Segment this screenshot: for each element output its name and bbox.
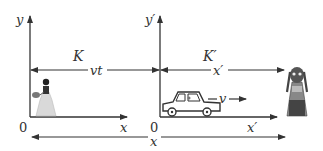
figure-icon [287, 67, 307, 116]
x-dim-label: x [150, 134, 158, 149]
x-prime-axis-label: x′ [247, 120, 257, 135]
y-axis-label: y [15, 12, 24, 27]
origin-label-k-prime: 0 [150, 120, 158, 135]
woman-figure-icon [32, 79, 56, 116]
vt-label: vt [90, 63, 103, 78]
relativity-diagram: y x 0 K y′ x′ 0 K′ vt x′ x v [0, 0, 323, 151]
origin-label-k: 0 [19, 120, 27, 135]
x-axis-label: x [120, 120, 128, 135]
y-prime-axis-label: y′ [144, 12, 155, 27]
car-icon [163, 92, 220, 116]
frame-k-prime-label: K′ [202, 48, 217, 64]
frame-k-label: K [72, 48, 85, 64]
x-prime-dim-label: x′ [213, 63, 223, 78]
velocity-label: v [219, 91, 227, 106]
